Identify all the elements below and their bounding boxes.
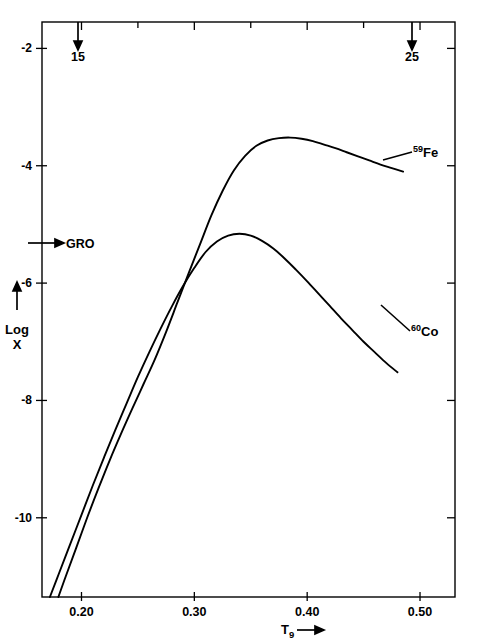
top-arrow-15-head — [74, 41, 82, 50]
y-tick-label-0: -2 — [21, 41, 32, 55]
leader-line-59fe — [383, 152, 412, 160]
series-label-60co-base: Co — [421, 324, 438, 339]
y-axis-arrow-head — [13, 282, 21, 291]
gro-label: GRO — [66, 237, 95, 251]
gro-arrow-head — [55, 239, 64, 247]
y-tick-label-3: -8 — [21, 393, 32, 407]
x-axis-arrow-head — [315, 626, 324, 634]
series-label-59fe-base: Fe — [423, 145, 438, 160]
series-curve-60co — [50, 234, 398, 597]
y-axis-ticks-right — [447, 48, 455, 517]
x-axis-title-base: T — [281, 622, 289, 637]
x-axis-title: T9 — [281, 622, 324, 640]
series-label-59fe: 59Fe — [413, 144, 438, 160]
x-axis-title-sub: 9 — [289, 629, 294, 640]
figure-container: -2-4-6-8-10 0.200.300.400.50 59Fe 60Co G… — [0, 0, 477, 643]
y-axis-title-line2: X — [13, 337, 22, 352]
series-label-60co: 60Co — [411, 323, 438, 339]
series-labels: 59Fe 60Co — [381, 144, 438, 339]
top-arrow-15-label: 15 — [71, 50, 85, 64]
series-label-60co-sup: 60 — [411, 323, 421, 333]
y-tick-label-2: -6 — [21, 276, 32, 290]
top-arrow-annotation-25: 25 — [405, 22, 419, 64]
y-tick-label-4: -10 — [15, 511, 33, 525]
x-axis-tick-labels: 0.200.300.400.50 — [69, 605, 432, 619]
x-axis-title-text: T9 — [281, 622, 294, 640]
chart-plot: -2-4-6-8-10 0.200.300.400.50 59Fe 60Co G… — [0, 0, 477, 643]
top-arrow-25-label: 25 — [405, 50, 419, 64]
y-axis-title-line1: Log — [5, 322, 29, 337]
y-axis-title: Log X — [5, 282, 29, 352]
plot-frame — [42, 22, 455, 597]
series-label-59fe-sup: 59 — [413, 144, 423, 154]
data-curves — [50, 138, 403, 597]
x-tick-label-3: 0.50 — [408, 605, 432, 619]
top-arrow-annotation-15: 15 — [71, 22, 85, 64]
gro-annotation: GRO — [28, 237, 95, 251]
x-tick-label-1: 0.30 — [182, 605, 206, 619]
x-axis-ticks-top — [81, 22, 420, 30]
top-arrow-25-head — [408, 41, 416, 50]
x-tick-label-2: 0.40 — [295, 605, 319, 619]
x-tick-label-0: 0.20 — [69, 605, 93, 619]
series-curve-59fe — [58, 138, 403, 597]
y-tick-label-1: -4 — [21, 159, 32, 173]
leader-line-60co — [381, 305, 410, 331]
